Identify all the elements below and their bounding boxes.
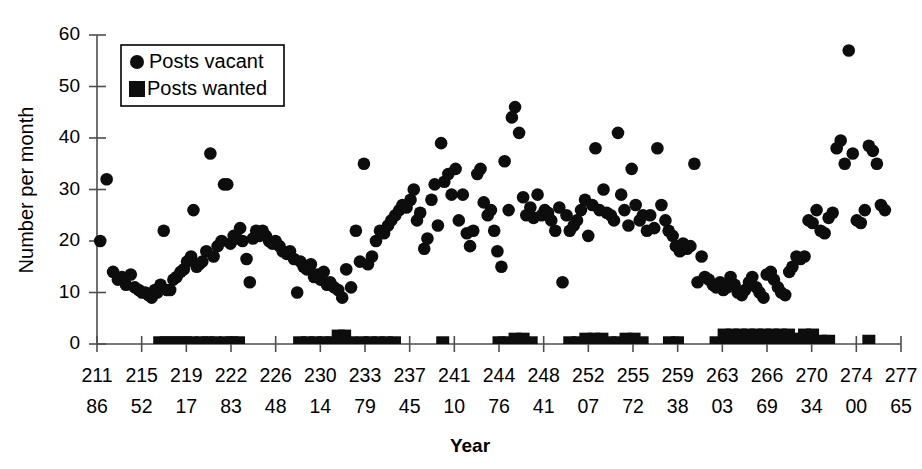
data-point-square [388, 336, 401, 344]
data-point-circle [838, 157, 851, 170]
scatter-chart-container: 0102030405060 21186215522191722283226482… [0, 0, 922, 469]
x-tick-label-top: 259 [661, 364, 694, 386]
x-tick-label-bottom: 48 [265, 395, 287, 417]
data-point-circle [798, 250, 811, 263]
data-point-circle [336, 291, 349, 304]
x-tick-label-top: 255 [617, 364, 650, 386]
x-tick-label-bottom: 10 [443, 395, 465, 417]
data-point-circle [350, 224, 363, 237]
data-point-circle [622, 219, 635, 232]
x-tick-label-top: 230 [304, 364, 337, 386]
data-point-circle [688, 157, 701, 170]
data-point-circle [615, 188, 628, 201]
y-tick-label: 60 [59, 23, 80, 44]
data-point-circle [695, 250, 708, 263]
circle-marker-icon [130, 55, 144, 69]
data-point-circle [810, 204, 823, 217]
data-point-square [822, 335, 835, 344]
data-point-circle [502, 204, 515, 217]
data-point-circle [240, 253, 253, 266]
data-point-circle [407, 183, 420, 196]
data-point-circle [629, 199, 642, 212]
data-point-circle [513, 127, 526, 140]
x-tick-group: 2118621552219172228322648230142337923745… [81, 336, 917, 417]
data-point-square [436, 336, 449, 344]
x-tick-label-top: 252 [572, 364, 605, 386]
data-point-circle [498, 155, 511, 168]
data-point-circle [488, 224, 501, 237]
data-point-circle [818, 227, 831, 240]
data-point-circle [826, 206, 839, 219]
legend: Posts vacant Posts wanted [121, 45, 284, 106]
data-point-circle [879, 204, 892, 217]
x-tick-label-top: 244 [483, 364, 516, 386]
x-tick-label-top: 274 [840, 364, 873, 386]
x-tick-label-bottom: 45 [399, 395, 421, 417]
y-tick-label: 50 [59, 75, 80, 96]
data-point-circle [358, 157, 371, 170]
x-tick-label-bottom: 72 [622, 395, 644, 417]
y-tick-label: 20 [59, 229, 80, 250]
data-point-circle [597, 183, 610, 196]
data-point-circle [425, 194, 438, 207]
data-point-circle [464, 240, 477, 253]
data-point-circle [625, 163, 638, 176]
data-point-circle [221, 178, 234, 191]
data-point-circle [340, 263, 353, 276]
data-point-circle [582, 230, 595, 243]
series-posts-wanted [153, 329, 875, 344]
data-point-circle [474, 163, 487, 176]
x-tick-label-bottom: 00 [845, 395, 867, 417]
chart-svg: 0102030405060 21186215522191722283226482… [0, 0, 922, 469]
x-tick-label-bottom: 03 [711, 395, 733, 417]
data-point-circle [618, 204, 631, 217]
data-point-circle [684, 240, 697, 253]
data-point-circle [467, 224, 480, 237]
x-tick-label-bottom: 17 [175, 395, 197, 417]
data-point-square [636, 336, 649, 344]
data-point-circle [243, 276, 256, 289]
x-tick-label-bottom: 52 [131, 395, 153, 417]
x-tick-label-top: 277 [885, 364, 918, 386]
x-tick-label-bottom: 83 [220, 395, 242, 417]
data-point-square [525, 336, 538, 344]
x-tick-label-bottom: 41 [533, 395, 555, 417]
x-tick-label-bottom: 34 [801, 395, 823, 417]
x-tick-label-top: 263 [706, 364, 739, 386]
data-point-circle [842, 44, 855, 57]
legend-label-posts-wanted: Posts wanted [147, 77, 267, 99]
x-tick-label-top: 241 [438, 364, 471, 386]
data-point-circle [94, 235, 107, 248]
x-tick-label-bottom: 86 [86, 395, 108, 417]
y-axis-title: Number per month [15, 107, 37, 274]
y-tick-label: 30 [59, 178, 80, 199]
data-point-circle [157, 224, 170, 237]
data-point-circle [432, 219, 445, 232]
x-tick-label-top: 219 [170, 364, 203, 386]
data-point-circle [531, 188, 544, 201]
data-point-circle [421, 232, 434, 245]
x-tick-label-bottom: 65 [890, 395, 912, 417]
data-point-square [345, 336, 358, 344]
data-point-circle [517, 191, 530, 204]
data-point-circle [234, 222, 247, 235]
data-point-circle [648, 222, 661, 235]
data-point-circle [366, 250, 379, 263]
data-point-circle [100, 173, 113, 186]
data-point-square [232, 336, 245, 344]
x-tick-label-bottom: 79 [354, 395, 376, 417]
data-point-circle [655, 199, 668, 212]
data-point-circle [453, 214, 466, 227]
data-point-circle [485, 204, 498, 217]
y-axis: 0102030405060 [59, 23, 106, 353]
data-point-circle [834, 134, 847, 147]
data-point-circle [291, 286, 304, 299]
y-tick-group: 0102030405060 [59, 23, 106, 353]
data-point-circle [556, 276, 569, 289]
x-tick-label-top: 211 [81, 364, 112, 386]
data-point-circle [608, 214, 621, 227]
data-point-circle [855, 217, 868, 230]
data-point-circle [204, 147, 217, 160]
data-point-circle [435, 137, 448, 150]
data-point-circle [449, 163, 462, 176]
